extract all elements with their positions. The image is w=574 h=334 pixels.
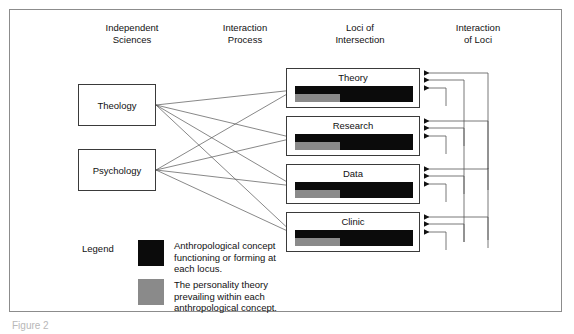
- personality-bar-gray-data: [295, 190, 340, 198]
- locus-box-data[interactable]: Data: [286, 164, 420, 204]
- column-heading-interaction-process: Interaction Process: [185, 22, 305, 45]
- science-box-psychology[interactable]: Psychology: [78, 149, 156, 191]
- legend-text-anthropological-concept: Anthropological concept functioning or f…: [174, 240, 304, 275]
- column-heading-interaction-of-loci: Interaction of Loci: [418, 22, 538, 45]
- locus-title-research: Research: [287, 120, 419, 131]
- science-box-theology[interactable]: Theology: [78, 84, 156, 126]
- column-heading-loci-of-intersection: Loci of Intersection: [300, 22, 420, 45]
- locus-bar-theory: [295, 86, 413, 102]
- locus-title-theory: Theory: [287, 72, 419, 83]
- personality-bar-gray-research: [295, 142, 340, 150]
- locus-title-clinic: Clinic: [287, 216, 419, 227]
- locus-bar-research: [295, 134, 413, 150]
- locus-bar-clinic: [295, 230, 413, 246]
- legend-text-personality-theory: The personality theory prevailing within…: [174, 279, 304, 314]
- locus-box-theory[interactable]: Theory: [286, 68, 420, 108]
- personality-bar-gray-theory: [295, 94, 340, 102]
- science-box-theology-label: Theology: [97, 100, 136, 111]
- locus-title-data: Data: [287, 168, 419, 179]
- locus-box-research[interactable]: Research: [286, 116, 420, 156]
- column-heading-independent-sciences: Independent Sciences: [72, 22, 192, 45]
- locus-bar-data: [295, 182, 413, 198]
- legend-swatch-personality-theory: [138, 279, 164, 305]
- legend-title: Legend: [82, 243, 114, 254]
- figure-caption: Figure 2: [12, 320, 49, 333]
- figure-diagram: Independent Sciences Interaction Process…: [0, 0, 574, 334]
- legend-swatch-anthropological-concept: [138, 240, 164, 266]
- science-box-psychology-label: Psychology: [93, 165, 142, 176]
- locus-box-clinic[interactable]: Clinic: [286, 212, 420, 252]
